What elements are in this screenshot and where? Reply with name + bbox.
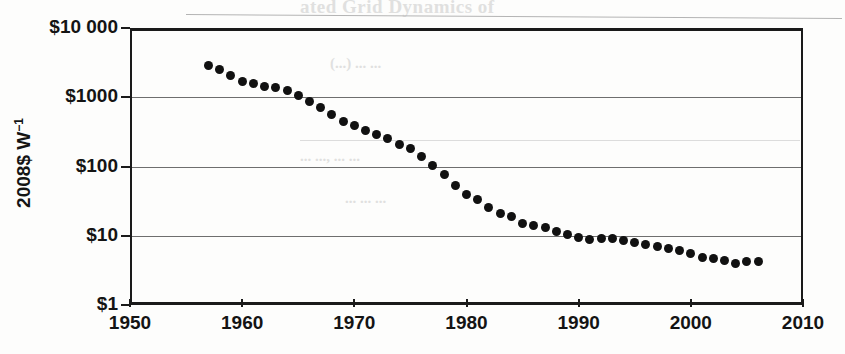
x-tick-label-2010: 2010 (768, 312, 838, 334)
x-tick-label-1970: 1970 (319, 312, 389, 334)
x-tick-label-2000: 2000 (656, 312, 726, 334)
x-tick-label-1990: 1990 (544, 312, 614, 334)
y-tick-mark-10000 (121, 27, 130, 29)
x-tick-label-1950: 1950 (95, 312, 165, 334)
x-tick-label-1960: 1960 (207, 312, 277, 334)
y-tick-label-100: $100 (76, 155, 118, 177)
y-tick-mark-1000 (121, 96, 130, 98)
y-axis-title: 2008$ W−1 (13, 68, 35, 258)
y-axis-title-text: 2008$ W (13, 132, 34, 208)
x-tick-label-1980: 1980 (432, 312, 502, 334)
figure-page: ated Grid Dynamics of (...) ... ... ... … (0, 0, 845, 354)
y-tick-mark-100 (121, 166, 130, 168)
y-tick-label-10: $10 (86, 224, 118, 246)
y-tick-label-1000: $1000 (65, 85, 118, 107)
y-tick-label-10000: $10 000 (49, 16, 118, 38)
y-tick-mark-10 (121, 235, 130, 237)
plot-area-frame (130, 28, 803, 305)
ghost-rule-line (186, 14, 842, 19)
y-axis-title-exponent: −1 (12, 118, 26, 132)
ghost-heading-text: ated Grid Dynamics of (300, 0, 495, 17)
